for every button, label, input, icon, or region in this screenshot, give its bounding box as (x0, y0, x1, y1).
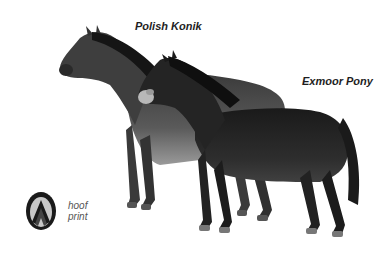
hoof-print-icon (26, 192, 56, 230)
horses-drawing (0, 0, 390, 255)
exmoor-pony-label: Exmoor Pony (302, 75, 373, 87)
hoof-label-line2: print (68, 211, 87, 222)
hoof-print-label: hoof print (68, 200, 87, 222)
horse-illustration: Polish Konik Exmoor Pony hoof print (0, 0, 390, 255)
polish-konik-label: Polish Konik (135, 20, 202, 32)
hoof-label-line1: hoof (68, 200, 87, 211)
